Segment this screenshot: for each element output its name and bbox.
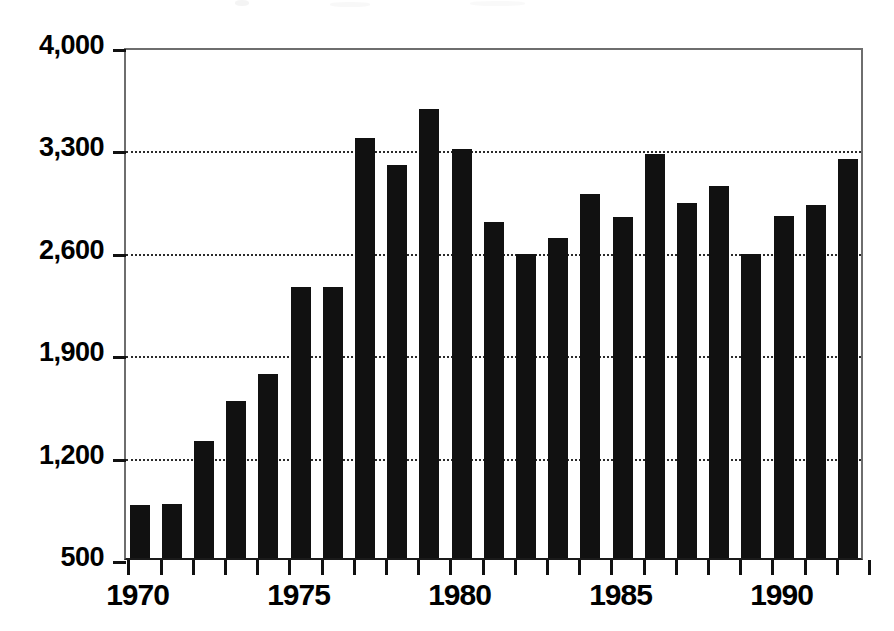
bar	[709, 186, 729, 558]
x-axis-tick	[675, 560, 678, 575]
x-axis-tick	[771, 560, 774, 575]
x-axis-tick-label: 1980	[428, 578, 491, 612]
y-axis-tick	[113, 356, 126, 359]
x-axis-tick-label: 1990	[750, 578, 813, 612]
x-axis-tick	[546, 560, 549, 575]
x-axis-tick	[224, 560, 227, 575]
x-axis-tick	[321, 560, 324, 575]
y-axis-tick	[113, 254, 126, 257]
bar	[613, 217, 633, 558]
y-axis-tick	[113, 561, 126, 564]
bar	[484, 222, 504, 558]
bar	[258, 374, 278, 558]
bar	[774, 216, 794, 558]
y-axis-tick-label: 1,200	[39, 440, 104, 471]
bar	[387, 165, 407, 558]
x-axis-tick	[514, 560, 517, 575]
gridline	[126, 151, 861, 153]
chart-page: 5001,2001,9002,6003,3004,000 19701975198…	[0, 0, 894, 631]
x-axis-tick	[160, 560, 163, 575]
x-axis-tick	[385, 560, 388, 575]
y-axis-tick-label: 4,000	[39, 30, 104, 61]
bar	[548, 238, 568, 558]
bar	[580, 194, 600, 558]
y-axis-tick	[113, 151, 126, 154]
x-axis-tick	[288, 560, 291, 575]
x-axis-tick	[417, 560, 420, 575]
x-axis-tick-label: 1985	[589, 578, 652, 612]
x-axis-tick	[256, 560, 259, 575]
bar	[130, 505, 150, 558]
scan-artifact	[235, 0, 249, 6]
bar	[323, 287, 343, 558]
bar	[677, 203, 697, 558]
x-axis-tick	[610, 560, 613, 575]
scan-artifact	[470, 1, 525, 6]
bar	[355, 138, 375, 558]
x-axis-tick	[643, 560, 646, 575]
y-axis-tick	[113, 459, 126, 462]
scan-artifact	[330, 2, 370, 7]
x-axis-tick-label: 1975	[267, 578, 330, 612]
y-axis-tick-label: 1,900	[39, 337, 104, 368]
bar	[419, 109, 439, 558]
y-axis-tick-label: 2,600	[39, 235, 104, 266]
x-axis-tick	[192, 560, 195, 575]
y-axis-tick-label: 500	[60, 542, 104, 573]
bar	[226, 401, 246, 558]
x-axis-tick	[578, 560, 581, 575]
bar	[645, 154, 665, 558]
bar	[838, 159, 858, 558]
x-axis-tick	[836, 560, 839, 575]
bar	[516, 254, 536, 558]
x-axis-tick-label: 1970	[106, 578, 169, 612]
x-axis-tick	[707, 560, 710, 575]
x-axis-tick	[449, 560, 452, 575]
bar	[806, 205, 826, 558]
x-axis-tick	[353, 560, 356, 575]
bar	[194, 441, 214, 558]
bar	[291, 287, 311, 558]
x-axis-tick	[482, 560, 485, 575]
bar	[741, 254, 761, 558]
x-axis-tick	[127, 560, 130, 575]
bar	[162, 504, 182, 558]
y-axis-tick-label: 3,300	[39, 132, 104, 163]
x-axis-tick	[739, 560, 742, 575]
bar	[452, 149, 472, 558]
y-axis-tick	[113, 49, 126, 52]
plot-area	[124, 48, 863, 560]
x-axis-tick	[804, 560, 807, 575]
x-axis-tick	[868, 560, 871, 575]
